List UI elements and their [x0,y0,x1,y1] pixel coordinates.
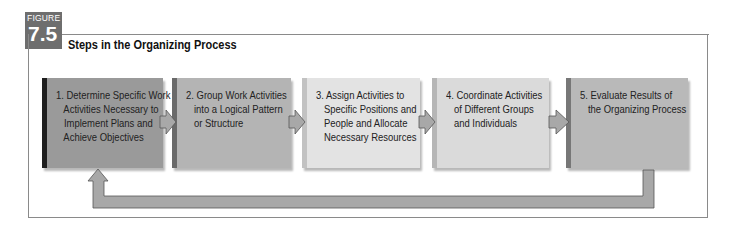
arrow-right-icon [419,110,435,134]
connectors-layer [0,0,737,231]
feedback-loop-arrow-icon [88,169,654,208]
arrow-right-icon [549,110,569,134]
arrow-right-icon [160,110,176,134]
arrow-right-icon [289,110,305,134]
